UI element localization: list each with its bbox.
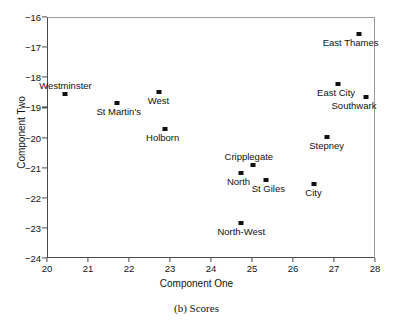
y-axis-tick — [42, 197, 47, 198]
x-axis-tick — [169, 258, 170, 262]
y-axis-tick-label: −18 — [25, 72, 41, 83]
x-axis-tick — [333, 258, 334, 262]
y-axis-tick — [42, 257, 47, 258]
y-axis-tick-label: −24 — [25, 253, 41, 264]
y-axis-tick — [42, 47, 47, 48]
y-axis-tick-label: −21 — [25, 162, 41, 173]
y-axis-tick — [42, 107, 47, 108]
y-axis-tick — [42, 227, 47, 228]
y-axis-tick-label: −20 — [25, 132, 41, 143]
data-point-marker — [63, 92, 68, 96]
x-axis-tick-label: 23 — [165, 263, 176, 274]
x-axis-tick-label: 21 — [83, 263, 94, 274]
data-point-label: St Martin's — [96, 107, 141, 117]
x-axis-label: Component One — [0, 278, 393, 289]
y-axis-tick-label: −17 — [25, 42, 41, 53]
figure-caption: (b) Scores — [0, 302, 393, 314]
data-point-marker — [114, 101, 119, 105]
data-point-label: North-West — [217, 227, 265, 237]
data-point-label: City — [305, 188, 321, 198]
y-axis-tick-label: −16 — [25, 12, 41, 23]
x-axis-tick — [87, 258, 88, 262]
x-axis-tick-label: 28 — [370, 263, 381, 274]
x-axis-tick — [210, 258, 211, 262]
x-axis-tick-label: 24 — [206, 263, 217, 274]
data-point-label: East Thames — [323, 38, 379, 48]
x-axis-tick — [128, 258, 129, 262]
data-point-marker — [239, 221, 244, 225]
data-point-marker — [264, 178, 269, 182]
y-axis-tick-label: −23 — [25, 222, 41, 233]
x-axis-tick — [292, 258, 293, 262]
data-point-label: St Giles — [252, 184, 285, 194]
data-point-marker — [336, 82, 341, 86]
x-axis-tick-label: 26 — [288, 263, 299, 274]
data-point-marker — [311, 182, 316, 186]
x-axis-tick-label: 20 — [42, 263, 53, 274]
data-point-label: Westminster — [39, 81, 92, 91]
x-axis-tick — [374, 258, 375, 262]
scatter-plot-figure: WestminsterSt Martin'sWestHolbornCripple… — [0, 0, 393, 328]
data-point-label: Stepney — [309, 141, 344, 151]
data-point-marker — [156, 90, 161, 94]
x-axis-tick-label: 27 — [329, 263, 340, 274]
data-point-marker — [162, 127, 167, 131]
data-point-marker — [356, 32, 361, 36]
y-axis-tick — [42, 137, 47, 138]
data-point-marker — [250, 163, 255, 167]
data-point-marker — [324, 135, 329, 139]
y-axis-label: Component Two — [16, 63, 27, 203]
data-point-label: Holborn — [146, 133, 179, 143]
x-axis-tick — [251, 258, 252, 262]
data-point-marker — [238, 171, 243, 175]
y-axis-tick — [42, 16, 47, 17]
y-axis-tick — [42, 167, 47, 168]
y-axis-tick-label: −19 — [25, 102, 41, 113]
data-point-label: North — [227, 177, 250, 187]
data-point-label: Southwark — [332, 101, 377, 111]
x-axis-tick — [46, 258, 47, 262]
data-point-label: West — [148, 96, 169, 106]
data-point-label: Cripplegate — [225, 152, 274, 162]
y-axis-tick — [42, 77, 47, 78]
x-axis-tick-label: 22 — [124, 263, 135, 274]
data-point-label: East City — [317, 88, 355, 98]
x-axis-tick-label: 25 — [247, 263, 258, 274]
y-axis-tick-label: −22 — [25, 192, 41, 203]
data-point-marker — [363, 95, 368, 99]
